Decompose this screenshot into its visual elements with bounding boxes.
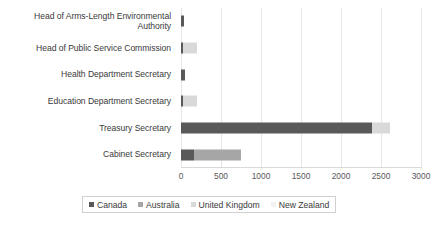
legend-label: New Zealand (279, 200, 330, 210)
bar-segment-united-kingdom[interactable] (183, 43, 197, 54)
chart-legend: CanadaAustraliaUnited KingdomNew Zealand (82, 196, 336, 213)
stacked-bar[interactable] (181, 123, 390, 134)
stacked-bar[interactable] (181, 149, 241, 160)
x-tick-label: 0 (179, 170, 184, 182)
x-tick-label: 500 (214, 170, 228, 182)
legend-swatch-icon (271, 202, 276, 207)
legend-item-new-zealand[interactable]: New Zealand (271, 200, 330, 210)
bar-row (181, 115, 421, 142)
legend-item-united-kingdom[interactable]: United Kingdom (191, 200, 260, 210)
bar-segment-canada[interactable] (181, 149, 194, 160)
stacked-bar[interactable] (181, 96, 197, 107)
legend-item-australia[interactable]: Australia (138, 200, 179, 210)
bar-segment-canada[interactable] (181, 123, 372, 134)
bar-segment-united-kingdom[interactable] (372, 123, 390, 134)
bar-chart: Head of Arms-Length Environmental Author… (0, 0, 440, 234)
category-label: Cabinet Secretary (0, 141, 176, 168)
bar-segment-canada[interactable] (181, 16, 184, 27)
legend-label: Australia (146, 200, 179, 210)
x-tick-label: 2500 (372, 170, 391, 182)
bar-segment-australia[interactable] (194, 149, 240, 160)
bar-segment-canada[interactable] (181, 69, 185, 80)
bar-segment-united-kingdom[interactable] (183, 96, 197, 107)
gridline (421, 8, 422, 168)
legend-label: Canada (97, 200, 127, 210)
category-label: Treasury Secretary (0, 115, 176, 142)
category-label: Head of Public Service Commission (0, 35, 176, 62)
stacked-bar[interactable] (181, 43, 197, 54)
legend-item-canada[interactable]: Canada (89, 200, 127, 210)
legend-swatch-icon (89, 202, 94, 207)
bar-row (181, 35, 421, 62)
stacked-bar[interactable] (181, 16, 184, 27)
x-tick-label: 2000 (332, 170, 351, 182)
legend-swatch-icon (138, 202, 143, 207)
x-axis-tick-labels: 050010001500200025003000 (181, 170, 421, 184)
x-axis-baseline (181, 167, 421, 168)
category-axis-labels: Head of Arms-Length Environmental Author… (0, 8, 176, 168)
category-label: Health Department Secretary (0, 61, 176, 88)
legend-swatch-icon (191, 202, 196, 207)
x-tick-label: 1000 (252, 170, 271, 182)
category-label: Head of Arms-Length Environmental Author… (0, 8, 176, 35)
bar-row (181, 8, 421, 35)
bar-row (181, 141, 421, 168)
bar-row (181, 88, 421, 115)
bar-row (181, 61, 421, 88)
x-tick-label: 3000 (412, 170, 431, 182)
legend-label: United Kingdom (199, 200, 260, 210)
stacked-bar[interactable] (181, 69, 185, 80)
plot-area (181, 8, 421, 168)
bar-rows (181, 8, 421, 168)
category-label: Education Department Secretary (0, 88, 176, 115)
x-tick-label: 1500 (292, 170, 311, 182)
